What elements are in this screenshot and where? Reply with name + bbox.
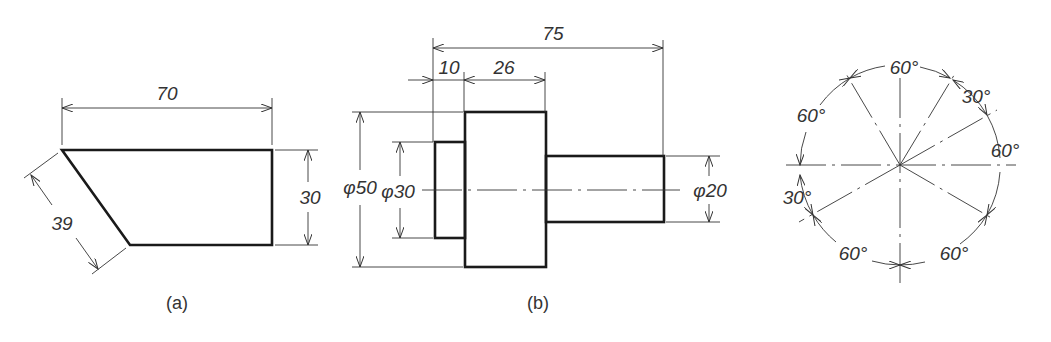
arc-60-bl bbox=[813, 215, 836, 242]
figure-b: 75 10 26 φ50 φ30 φ20 (b) bbox=[343, 23, 727, 313]
figure-angles: 60° 30° 60° 60° 60° 30° 60° bbox=[783, 57, 1020, 283]
dim-phi50: φ50 bbox=[343, 177, 377, 198]
plate-outline bbox=[62, 150, 272, 245]
dim-70: 70 bbox=[156, 83, 178, 104]
caption-b: (b) bbox=[527, 293, 549, 313]
angle-top: 60° bbox=[890, 57, 919, 78]
right-shaft bbox=[546, 156, 664, 222]
technical-drawing: 70 30 39 (a) 75 10 26 bbox=[0, 0, 1051, 342]
arc-top-right bbox=[920, 67, 950, 78]
extension-line bbox=[24, 153, 58, 178]
arc-top-left bbox=[850, 66, 885, 78]
dim-75: 75 bbox=[542, 23, 564, 44]
radial-line-60 bbox=[900, 72, 956, 165]
arc-60-left-b bbox=[820, 78, 850, 105]
arc-bottom-right bbox=[900, 262, 925, 265]
arc-60-br bbox=[960, 215, 987, 244]
dim-39: 39 bbox=[51, 213, 73, 234]
radial-line-210 bbox=[799, 165, 900, 222]
dim-line-39 bbox=[76, 238, 98, 269]
arc-bottom-left bbox=[872, 261, 900, 265]
radial-line-30 bbox=[900, 110, 997, 165]
arc-60-left bbox=[800, 132, 806, 165]
main-body bbox=[465, 112, 546, 267]
angle-bottom-left: 60° bbox=[839, 243, 868, 264]
dim-line-39 bbox=[31, 175, 52, 205]
dim-26: 26 bbox=[492, 57, 515, 78]
caption-a: (a) bbox=[166, 293, 188, 313]
extension-line bbox=[92, 248, 126, 274]
dim-10: 10 bbox=[438, 57, 460, 78]
arc-60-right-b bbox=[987, 172, 1000, 215]
angle-right: 60° bbox=[991, 140, 1020, 161]
angle-left: 30° bbox=[783, 187, 812, 208]
dim-phi20: φ20 bbox=[693, 180, 727, 201]
angle-bottom-right: 60° bbox=[940, 243, 969, 264]
angle-top-right: 30° bbox=[962, 86, 991, 107]
dim-phi30: φ30 bbox=[381, 181, 415, 202]
figure-a: 70 30 39 (a) bbox=[24, 83, 321, 313]
radial-line-120 bbox=[845, 72, 900, 165]
angle-top-left: 60° bbox=[797, 105, 826, 126]
radial-line-330 bbox=[900, 165, 995, 220]
dim-30: 30 bbox=[299, 187, 321, 208]
